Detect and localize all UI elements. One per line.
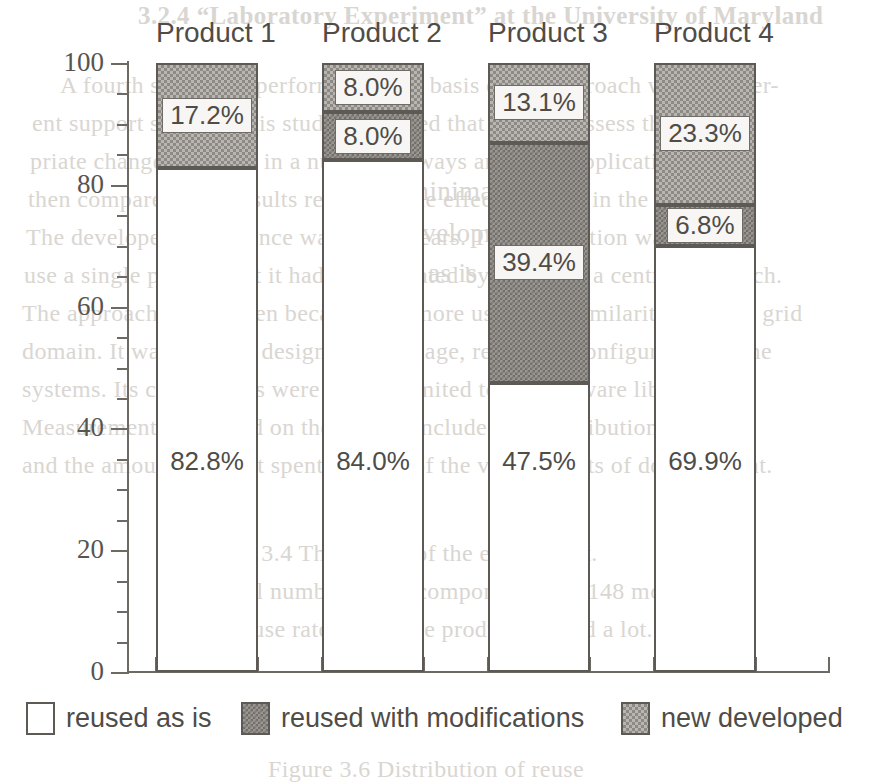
y-axis-major-tick — [111, 428, 128, 430]
legend-item-label: reused with modifications — [281, 704, 584, 733]
y-axis-major-tick — [111, 185, 128, 187]
y-axis-minor-tick — [117, 459, 128, 461]
category-title-4: Product 4 — [654, 18, 756, 48]
segment-value-label: 47.5% — [490, 447, 588, 475]
category-title-3: Product 3 — [488, 18, 590, 48]
y-axis-minor-tick — [117, 124, 128, 126]
y-axis-minor-tick — [117, 642, 128, 644]
segment-value-label: 39.4% — [494, 245, 584, 280]
light-stipple-swatch — [621, 702, 650, 735]
legend-item-2[interactable]: reused with modifications — [241, 702, 584, 735]
y-axis-major-tick — [111, 63, 128, 65]
y-axis-major-tick — [111, 550, 128, 552]
segment-value-label: 23.3% — [660, 116, 750, 151]
y-axis-minor-tick — [117, 581, 128, 583]
bar-segment[interactable]: 82.8% — [156, 168, 258, 672]
y-axis-tick-label: 20 — [77, 536, 104, 563]
bar-segment[interactable]: 6.8% — [654, 205, 756, 246]
y-axis-minor-tick — [117, 93, 128, 95]
dense-checker-swatch — [241, 702, 270, 735]
segment-value-label: 6.8% — [667, 208, 742, 243]
segment-value-label: 69.9% — [656, 447, 754, 475]
segment-value-label: 17.2% — [162, 98, 252, 133]
y-axis-major-tick — [111, 672, 128, 674]
y-axis-minor-tick — [117, 368, 128, 370]
category-title-2: Product 2 — [322, 18, 424, 48]
y-axis-tick-label: 80 — [77, 171, 104, 198]
y-axis-tick-label: 100 — [64, 49, 105, 76]
y-axis-minor-tick — [117, 276, 128, 278]
bar-segment[interactable]: 84.0% — [322, 160, 424, 672]
segment-value-label: 8.0% — [335, 70, 410, 105]
y-axis-major-tick — [111, 307, 128, 309]
chart-legend: reused as isreused with modificationsnew… — [0, 696, 878, 752]
bar-segment[interactable]: 17.2% — [156, 63, 258, 168]
bar-segment[interactable]: 13.1% — [488, 63, 590, 143]
category-title-1: Product 1 — [156, 18, 258, 48]
y-axis-minor-tick — [117, 215, 128, 217]
bar-segment[interactable]: 23.3% — [654, 63, 756, 205]
segment-value-label: 8.0% — [335, 119, 410, 154]
bar-group-2[interactable]: 84.0%8.0%8.0% — [322, 63, 424, 672]
white-swatch — [26, 702, 55, 735]
y-axis-minor-tick — [117, 489, 128, 491]
segment-value-label: 13.1% — [494, 85, 584, 120]
y-axis-tick-label: 0 — [91, 658, 105, 685]
bar-segment[interactable]: 39.4% — [488, 143, 590, 383]
y-axis-minor-tick — [117, 611, 128, 613]
y-axis-minor-tick — [117, 520, 128, 522]
y-axis-tick-labels: 100806040200 — [0, 0, 104, 783]
bar-segment[interactable]: 8.0% — [322, 63, 424, 112]
segment-value-label: 84.0% — [324, 447, 422, 475]
y-axis-minor-tick — [117, 154, 128, 156]
y-axis-minor-tick — [117, 246, 128, 248]
bar-group-1[interactable]: 82.8%17.2% — [156, 63, 258, 672]
segment-value-label: 82.8% — [158, 447, 256, 475]
y-axis-tick-label: 60 — [77, 293, 104, 320]
legend-item-label: new developed — [661, 704, 843, 733]
bar-segment[interactable]: 8.0% — [322, 112, 424, 161]
stacked-bar-chart: 100806040200 Product 1Product 2Product 3… — [0, 0, 878, 783]
y-axis-minor-tick — [117, 337, 128, 339]
y-axis-tick-label: 40 — [77, 414, 104, 441]
x-axis-tick — [828, 657, 830, 672]
legend-item-label: reused as is — [66, 704, 212, 733]
bar-group-3[interactable]: 47.5%39.4%13.1% — [488, 63, 590, 672]
legend-item-1[interactable]: reused as is — [26, 702, 212, 735]
bar-segment[interactable]: 47.5% — [488, 383, 590, 672]
bar-segment[interactable]: 69.9% — [654, 246, 756, 672]
legend-item-3[interactable]: new developed — [621, 702, 843, 735]
y-axis-minor-tick — [117, 398, 128, 400]
bar-group-4[interactable]: 69.9%6.8%23.3% — [654, 63, 756, 672]
